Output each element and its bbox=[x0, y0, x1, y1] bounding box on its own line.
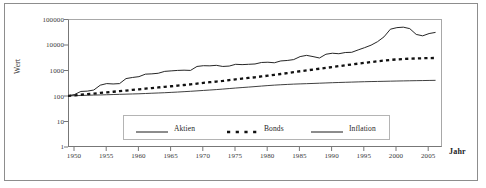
x-axis-title: Jahr bbox=[449, 147, 466, 156]
legend-label: Inflation bbox=[349, 124, 376, 133]
legend-entry-aktien: Aktien bbox=[135, 121, 195, 135]
legend-label: Aktien bbox=[174, 124, 195, 133]
dashed-line-sample-icon bbox=[225, 123, 259, 133]
legend-entry-bonds: Bonds bbox=[225, 121, 284, 135]
x-tick-label: 2005 bbox=[408, 152, 448, 160]
solid-line-sample-icon bbox=[310, 123, 344, 133]
legend-entry-inflation: Inflation bbox=[310, 121, 376, 135]
x-axis-tick-labels: 1950 1955 1960 1965 1970 1975 1980 1985 … bbox=[0, 0, 486, 188]
chart-figure: 100000 10000 1000 100 10 1 Wert bbox=[0, 0, 486, 188]
solid-line-sample-icon bbox=[135, 123, 169, 133]
chart-legend: Aktien Bonds Inflation bbox=[123, 115, 390, 140]
legend-label: Bonds bbox=[264, 124, 284, 133]
